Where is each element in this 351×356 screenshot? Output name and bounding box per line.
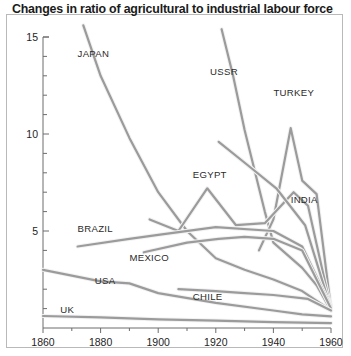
x-tick-label: 1920 xyxy=(204,336,228,348)
x-tick-label: 1960 xyxy=(319,336,343,348)
x-tick-label: 1880 xyxy=(89,336,113,348)
series-label-mexico: MEXICO xyxy=(129,252,169,263)
line-chart-plot: 51015186018801900192019401960 xyxy=(0,0,351,356)
series-label-chile: CHILE xyxy=(193,291,223,302)
series-label-uk: UK xyxy=(60,304,74,315)
series-uk xyxy=(43,316,331,323)
chart-series-lines xyxy=(43,25,331,323)
chart-axes: 51015186018801900192019401960 xyxy=(26,31,343,349)
series-label-ussr: USSR xyxy=(210,66,238,77)
series-label-turkey: TURKEY xyxy=(273,87,314,98)
y-tick-label: 15 xyxy=(26,31,38,43)
x-tick-label: 1860 xyxy=(31,336,55,348)
series-label-usa: USA xyxy=(95,275,116,286)
y-tick-label: 10 xyxy=(26,128,38,140)
series-label-japan: JAPAN xyxy=(78,48,110,59)
series-usa xyxy=(43,270,331,317)
series-label-egypt: EGYPT xyxy=(193,169,227,180)
y-tick-label: 5 xyxy=(32,225,38,237)
x-tick-label: 1900 xyxy=(147,336,171,348)
x-tick-label: 1940 xyxy=(262,336,286,348)
series-label-brazil: BRAZIL xyxy=(78,223,113,234)
series-label-india: INDIA xyxy=(291,194,318,205)
